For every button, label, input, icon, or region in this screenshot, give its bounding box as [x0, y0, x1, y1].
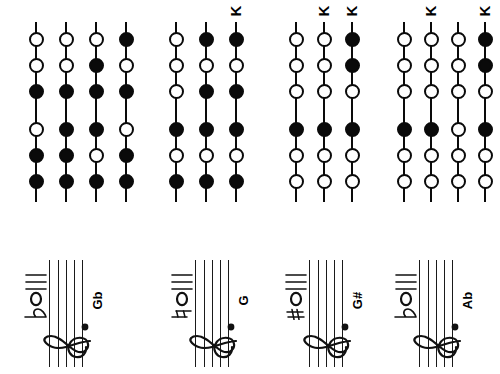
tone-hole-open[interactable] — [451, 122, 466, 137]
tone-hole-open[interactable] — [229, 148, 244, 163]
fingering-column[interactable] — [194, 22, 218, 112]
tone-hole-closed[interactable] — [229, 174, 244, 189]
fingering-column[interactable] — [419, 112, 443, 202]
fingering-column[interactable] — [84, 22, 108, 112]
tone-hole-closed[interactable] — [89, 58, 104, 73]
tone-hole-open[interactable] — [199, 58, 214, 73]
tone-hole-open[interactable] — [29, 58, 44, 73]
tone-hole-closed[interactable] — [29, 84, 44, 99]
tone-hole-closed[interactable] — [89, 122, 104, 137]
fingering-column[interactable] — [54, 112, 78, 202]
tone-hole-open[interactable] — [397, 58, 412, 73]
fingering-column[interactable] — [392, 112, 416, 202]
tone-hole-closed[interactable] — [317, 122, 332, 137]
fingering-column[interactable] — [114, 112, 138, 202]
fingering-column[interactable] — [284, 112, 308, 202]
tone-hole-open[interactable] — [345, 148, 360, 163]
tone-hole-closed[interactable] — [289, 122, 304, 137]
tone-hole-open[interactable] — [397, 148, 412, 163]
tone-hole-open[interactable] — [317, 174, 332, 189]
tone-hole-open[interactable] — [229, 58, 244, 73]
fingering-column[interactable] — [473, 22, 497, 112]
tone-hole-closed[interactable] — [59, 148, 74, 163]
tone-hole-open[interactable] — [424, 148, 439, 163]
tone-hole-open[interactable] — [289, 174, 304, 189]
tone-hole-open[interactable] — [119, 58, 134, 73]
tone-hole-open[interactable] — [29, 32, 44, 47]
tone-hole-open[interactable] — [29, 122, 44, 137]
tone-hole-open[interactable] — [317, 84, 332, 99]
tone-hole-closed[interactable] — [119, 32, 134, 47]
fingering-column[interactable] — [224, 112, 248, 202]
tone-hole-open[interactable] — [317, 58, 332, 73]
fingering-column[interactable] — [194, 112, 218, 202]
tone-hole-open[interactable] — [397, 32, 412, 47]
tone-hole-open[interactable] — [169, 58, 184, 73]
fingering-column[interactable] — [54, 22, 78, 112]
tone-hole-closed[interactable] — [478, 122, 493, 137]
tone-hole-open[interactable] — [424, 58, 439, 73]
fingering-column[interactable] — [312, 22, 336, 112]
tone-hole-open[interactable] — [317, 148, 332, 163]
tone-hole-open[interactable] — [424, 174, 439, 189]
tone-hole-open[interactable] — [59, 58, 74, 73]
fingering-column[interactable] — [419, 22, 443, 112]
fingering-column[interactable] — [84, 112, 108, 202]
tone-hole-closed[interactable] — [119, 148, 134, 163]
tone-hole-closed[interactable] — [59, 84, 74, 99]
tone-hole-closed[interactable] — [199, 174, 214, 189]
tone-hole-closed[interactable] — [29, 148, 44, 163]
fingering-column[interactable] — [312, 112, 336, 202]
tone-hole-closed[interactable] — [199, 32, 214, 47]
fingering-column[interactable] — [114, 22, 138, 112]
tone-hole-open[interactable] — [169, 32, 184, 47]
tone-hole-open[interactable] — [89, 148, 104, 163]
fingering-column[interactable] — [164, 22, 188, 112]
fingering-column[interactable] — [284, 22, 308, 112]
tone-hole-open[interactable] — [478, 174, 493, 189]
tone-hole-closed[interactable] — [119, 174, 134, 189]
tone-hole-closed[interactable] — [29, 174, 44, 189]
tone-hole-closed[interactable] — [345, 58, 360, 73]
tone-hole-open[interactable] — [289, 32, 304, 47]
tone-hole-closed[interactable] — [424, 122, 439, 137]
tone-hole-open[interactable] — [289, 58, 304, 73]
tone-hole-open[interactable] — [478, 148, 493, 163]
tone-hole-closed[interactable] — [199, 122, 214, 137]
tone-hole-closed[interactable] — [345, 122, 360, 137]
tone-hole-closed[interactable] — [89, 174, 104, 189]
tone-hole-closed[interactable] — [59, 122, 74, 137]
tone-hole-open[interactable] — [169, 84, 184, 99]
tone-hole-closed[interactable] — [229, 122, 244, 137]
tone-hole-closed[interactable] — [478, 32, 493, 47]
tone-hole-open[interactable] — [119, 122, 134, 137]
tone-hole-closed[interactable] — [229, 32, 244, 47]
tone-hole-open[interactable] — [478, 84, 493, 99]
tone-hole-closed[interactable] — [169, 122, 184, 137]
tone-hole-open[interactable] — [345, 84, 360, 99]
tone-hole-open[interactable] — [289, 148, 304, 163]
fingering-column[interactable] — [392, 22, 416, 112]
tone-hole-closed[interactable] — [397, 122, 412, 137]
fingering-column[interactable] — [446, 22, 470, 112]
fingering-column[interactable] — [340, 22, 364, 112]
fingering-column[interactable] — [24, 22, 48, 112]
tone-hole-closed[interactable] — [169, 174, 184, 189]
tone-hole-open[interactable] — [397, 84, 412, 99]
tone-hole-open[interactable] — [451, 174, 466, 189]
tone-hole-open[interactable] — [317, 32, 332, 47]
tone-hole-closed[interactable] — [119, 84, 134, 99]
tone-hole-open[interactable] — [289, 84, 304, 99]
fingering-column[interactable] — [340, 112, 364, 202]
tone-hole-open[interactable] — [451, 32, 466, 47]
tone-hole-closed[interactable] — [89, 84, 104, 99]
tone-hole-open[interactable] — [169, 148, 184, 163]
tone-hole-open[interactable] — [424, 84, 439, 99]
tone-hole-open[interactable] — [424, 32, 439, 47]
tone-hole-open[interactable] — [451, 84, 466, 99]
tone-hole-closed[interactable] — [229, 84, 244, 99]
fingering-column[interactable] — [164, 112, 188, 202]
fingering-column[interactable] — [24, 112, 48, 202]
tone-hole-open[interactable] — [59, 32, 74, 47]
fingering-column[interactable] — [446, 112, 470, 202]
